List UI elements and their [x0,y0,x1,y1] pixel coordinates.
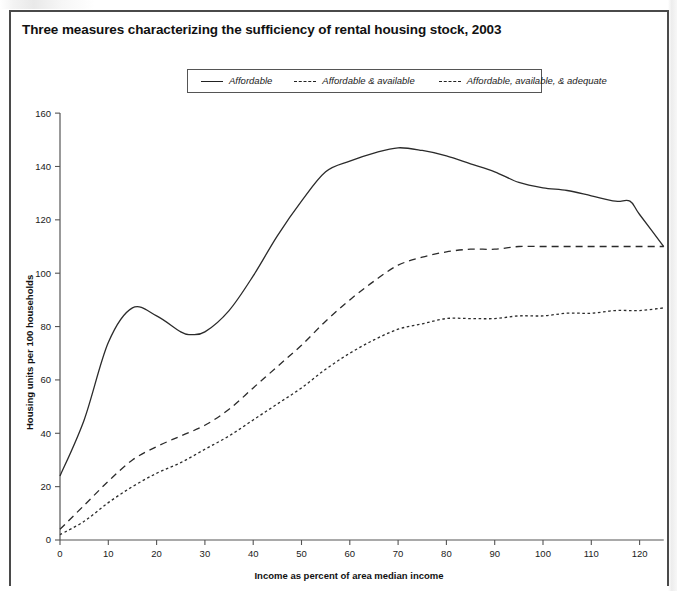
figure-frame [9,10,669,586]
scan-artifact-strip [0,0,677,9]
legend-swatch-dotted-icon [439,81,461,82]
legend-label-affordable: Affordable [229,76,272,86]
legend-swatch-solid-icon [201,81,223,82]
legend-entry-affordable: Affordable [201,76,272,86]
page-edge-shade [668,0,677,591]
legend-entry-affordable-available-adequate: Affordable, available, & adequate [439,76,607,86]
chart-title: Three measures characterizing the suffic… [22,22,622,37]
legend-label-affordable-available-adequate: Affordable, available, & adequate [467,76,607,86]
legend-entry-affordable-available: Affordable & available [294,76,414,86]
chart-legend: Affordable Affordable & available Afford… [187,69,542,93]
legend-swatch-dashed-icon [294,81,316,82]
legend-label-affordable-available: Affordable & available [322,76,414,86]
